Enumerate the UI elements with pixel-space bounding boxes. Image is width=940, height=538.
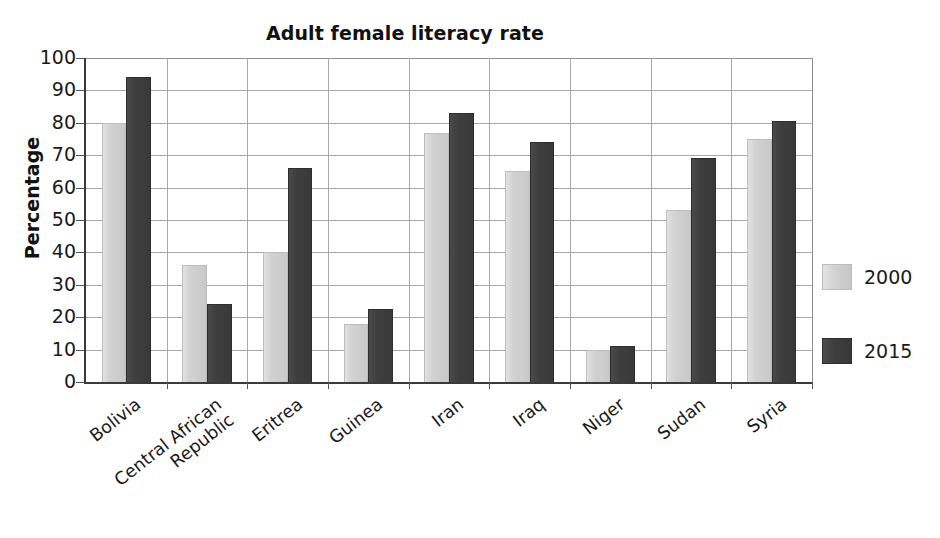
bar-chart: Adult female literacy rate Percentage 01… bbox=[0, 0, 940, 538]
bar-2015 bbox=[207, 304, 232, 382]
bar-2015 bbox=[126, 77, 151, 382]
bar-2015 bbox=[288, 168, 313, 382]
y-tick-label: 50 bbox=[16, 210, 76, 229]
y-tick-mark bbox=[76, 90, 84, 91]
y-tick-label: 40 bbox=[16, 242, 76, 261]
y-tick-mark bbox=[76, 188, 84, 189]
legend-item[interactable]: 2000 bbox=[822, 262, 912, 292]
x-tick-mark bbox=[812, 382, 813, 389]
y-tick-label: 70 bbox=[16, 145, 76, 164]
y-tick-mark bbox=[76, 285, 84, 286]
bar-2015 bbox=[772, 121, 797, 382]
gridline-vertical bbox=[731, 58, 732, 382]
bar-2015 bbox=[449, 113, 474, 382]
x-tick-mark bbox=[409, 382, 410, 389]
y-tick-label: 100 bbox=[16, 48, 76, 67]
bar-2000 bbox=[505, 171, 530, 382]
y-tick-mark bbox=[76, 382, 84, 383]
gridline-horizontal bbox=[86, 90, 812, 91]
y-tick-mark bbox=[76, 252, 84, 253]
bar-2000 bbox=[182, 265, 207, 382]
y-tick-mark bbox=[76, 123, 84, 124]
bar-2000 bbox=[586, 350, 611, 382]
bar-2015 bbox=[368, 309, 393, 382]
y-tick-label: 10 bbox=[16, 340, 76, 359]
gridline-vertical bbox=[409, 58, 410, 382]
x-tick-mark bbox=[247, 382, 248, 389]
legend-label: 2015 bbox=[864, 340, 912, 362]
gridline-vertical bbox=[570, 58, 571, 382]
bar-2015 bbox=[610, 346, 635, 382]
y-tick-mark bbox=[76, 220, 84, 221]
legend-swatch-icon bbox=[822, 264, 852, 290]
y-tick-mark bbox=[76, 155, 84, 156]
bar-2000 bbox=[424, 133, 449, 382]
bar-2000 bbox=[666, 210, 691, 382]
x-tick-mark bbox=[731, 382, 732, 389]
x-tick-mark bbox=[489, 382, 490, 389]
bar-2000 bbox=[344, 324, 369, 382]
gridline-vertical bbox=[651, 58, 652, 382]
y-tick-label: 0 bbox=[16, 372, 76, 391]
x-tick-mark bbox=[570, 382, 571, 389]
bar-2000 bbox=[747, 139, 772, 382]
plot-area bbox=[84, 58, 812, 384]
y-tick-label: 20 bbox=[16, 307, 76, 326]
gridline-vertical bbox=[247, 58, 248, 382]
x-tick-mark bbox=[328, 382, 329, 389]
legend-label: 2000 bbox=[864, 266, 912, 288]
y-tick-mark bbox=[76, 317, 84, 318]
bar-2015 bbox=[691, 158, 716, 382]
y-tick-label: 60 bbox=[16, 178, 76, 197]
gridline-vertical bbox=[328, 58, 329, 382]
gridline-vertical bbox=[812, 58, 813, 382]
chart-title: Adult female literacy rate bbox=[0, 22, 810, 44]
bar-2000 bbox=[102, 123, 127, 382]
bar-2015 bbox=[530, 142, 555, 382]
y-tick-label: 30 bbox=[16, 275, 76, 294]
legend-item[interactable]: 2015 bbox=[822, 336, 912, 366]
y-tick-mark bbox=[76, 350, 84, 351]
gridline-vertical bbox=[489, 58, 490, 382]
y-tick-label: 90 bbox=[16, 80, 76, 99]
bar-2000 bbox=[263, 252, 288, 382]
x-tick-mark bbox=[167, 382, 168, 389]
legend-swatch-icon bbox=[822, 338, 852, 364]
gridline-horizontal bbox=[86, 58, 812, 59]
y-tick-label: 80 bbox=[16, 113, 76, 132]
y-tick-mark bbox=[76, 58, 84, 59]
gridline-vertical bbox=[167, 58, 168, 382]
x-tick-mark bbox=[651, 382, 652, 389]
